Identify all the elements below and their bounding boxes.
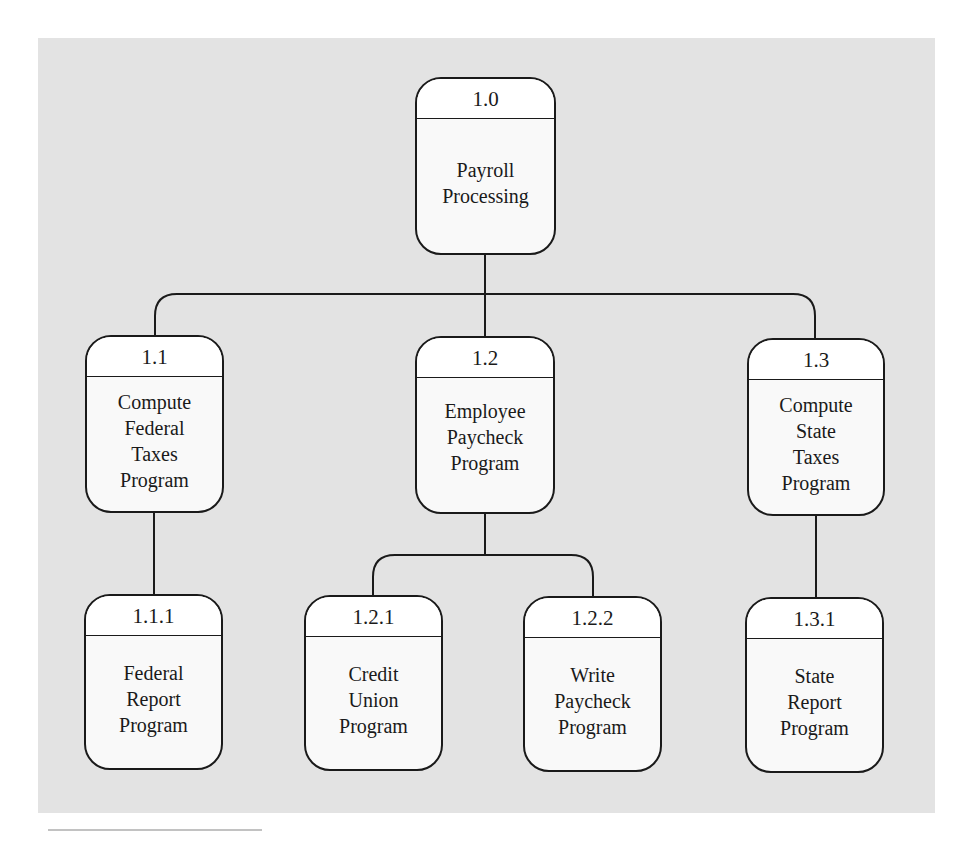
node-number: 1.2	[417, 338, 553, 378]
node-label-line: Compute	[779, 392, 852, 418]
node-label-line: Credit	[348, 661, 398, 687]
node-label: Credit Union Program	[306, 637, 441, 769]
node-label-line: Report	[787, 689, 841, 715]
node-label: Write Paycheck Program	[525, 638, 660, 770]
node-number: 1.0	[417, 79, 554, 119]
node-label-line: Taxes	[793, 444, 839, 470]
node-label-line: Union	[348, 687, 398, 713]
node-1.2.2-write-paycheck: 1.2.2 Write Paycheck Program	[523, 596, 662, 772]
node-label: Compute State Taxes Program	[749, 380, 883, 514]
node-label-line: Program	[451, 450, 520, 476]
node-1.3.1-state-report: 1.3.1 State Report Program	[745, 597, 884, 773]
node-number: 1.1	[87, 337, 222, 377]
node-1.1-compute-federal-taxes: 1.1 Compute Federal Taxes Program	[85, 335, 224, 513]
node-1.1.1-federal-report: 1.1.1 Federal Report Program	[84, 594, 223, 770]
node-1.3-compute-state-taxes: 1.3 Compute State Taxes Program	[747, 338, 885, 516]
node-number: 1.1.1	[86, 596, 221, 636]
node-label: Compute Federal Taxes Program	[87, 377, 222, 511]
node-1.2.1-credit-union: 1.2.1 Credit Union Program	[304, 595, 443, 771]
node-label-line: Program	[120, 467, 189, 493]
node-label-line: Compute	[118, 389, 191, 415]
node-label-line: Federal	[125, 415, 185, 441]
node-number: 1.2.1	[306, 597, 441, 637]
node-label-line: Employee	[444, 398, 525, 424]
node-label-line: Program	[558, 714, 627, 740]
node-number: 1.2.2	[525, 598, 660, 638]
node-label-line: Program	[339, 713, 408, 739]
node-label-line: State	[796, 418, 836, 444]
node-label: State Report Program	[747, 639, 882, 771]
node-1.2-employee-paycheck: 1.2 Employee Paycheck Program	[415, 336, 555, 514]
connector-level2-bus	[373, 555, 593, 596]
node-label-line: Payroll	[457, 157, 515, 183]
node-label-line: Write	[570, 662, 615, 688]
node-1.0-payroll-processing: 1.0 Payroll Processing	[415, 77, 556, 255]
node-label-line: State	[794, 663, 834, 689]
node-label-line: Paycheck	[554, 688, 631, 714]
node-label: Employee Paycheck Program	[417, 378, 553, 512]
node-label-line: Program	[780, 715, 849, 741]
node-label-line: Federal	[124, 660, 184, 686]
caption-divider	[48, 829, 262, 831]
node-label-line: Program	[782, 470, 851, 496]
node-label-line: Program	[119, 712, 188, 738]
node-number: 1.3.1	[747, 599, 882, 639]
node-label-line: Paycheck	[447, 424, 524, 450]
node-number: 1.3	[749, 340, 883, 380]
node-label: Federal Report Program	[86, 636, 221, 768]
node-label: Payroll Processing	[417, 119, 554, 253]
node-label-line: Processing	[442, 183, 529, 209]
node-label-line: Taxes	[131, 441, 177, 467]
node-label-line: Report	[126, 686, 180, 712]
